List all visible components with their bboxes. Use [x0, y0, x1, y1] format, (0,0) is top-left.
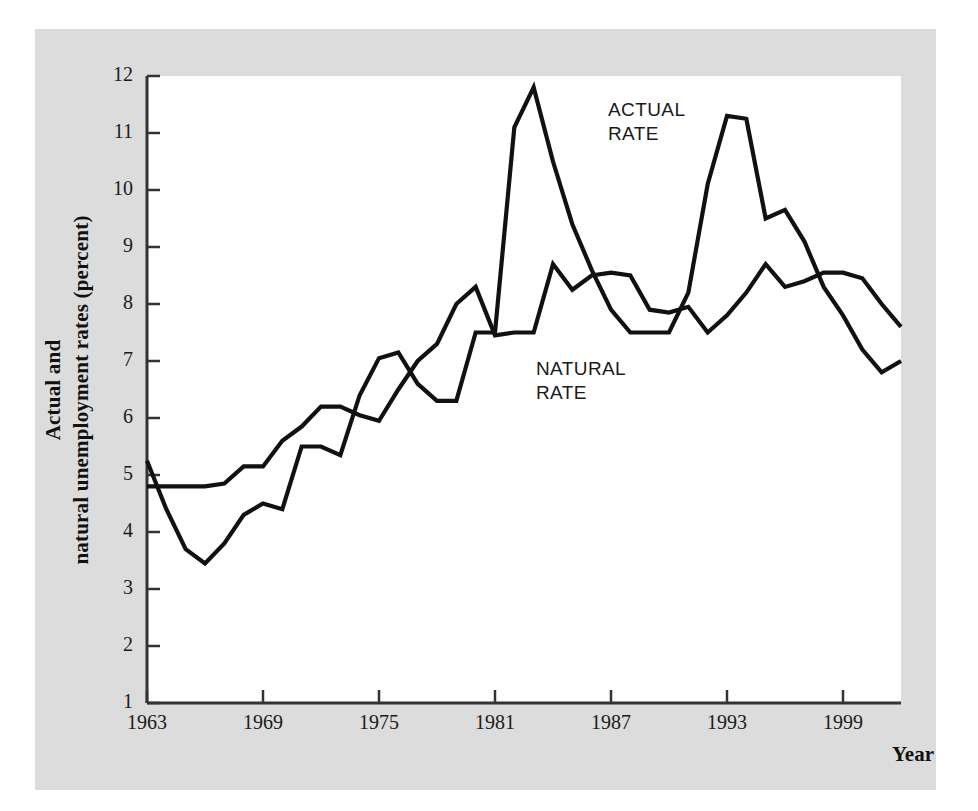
actual-rate-annotation-line-1: ACTUAL [608, 98, 685, 122]
y-axis-tick-label: 8 [99, 291, 133, 314]
y-axis-tick-label: 2 [99, 633, 133, 656]
natural-rate-annotation-line-1: NATURAL [536, 357, 626, 381]
x-axis-title: Year [892, 742, 934, 767]
x-axis-tick-label: 1969 [228, 711, 298, 734]
actual-rate-annotation: ACTUAL RATE [608, 98, 685, 147]
figure-root: Actual and natural unemployment rates (p… [0, 0, 978, 811]
x-axis-tick-label: 1993 [692, 711, 762, 734]
actual-rate-line [147, 87, 901, 563]
y-axis-tick-label: 7 [99, 348, 133, 371]
natural-rate-annotation-line-2: RATE [536, 381, 626, 405]
y-axis-tick-label: 3 [99, 576, 133, 599]
y-axis-ticks [147, 76, 160, 703]
y-axis-tick-label: 1 [99, 690, 133, 713]
y-axis-tick-label: 11 [99, 120, 133, 143]
y-axis-tick-label: 10 [99, 177, 133, 200]
y-axis-tick-label: 4 [99, 519, 133, 542]
axis-lines [147, 76, 901, 703]
natural-rate-line [147, 264, 901, 486]
y-axis-tick-label: 5 [99, 462, 133, 485]
x-axis-tick-label: 1981 [460, 711, 530, 734]
x-axis-tick-label: 1975 [344, 711, 414, 734]
x-axis-tick-label: 1963 [112, 711, 182, 734]
y-axis-tick-label: 6 [99, 405, 133, 428]
x-axis-tick-label: 1999 [808, 711, 878, 734]
y-axis-tick-label: 12 [99, 63, 133, 86]
data-series-lines [147, 87, 901, 563]
natural-rate-annotation: NATURAL RATE [536, 357, 626, 406]
x-axis-tick-label: 1987 [576, 711, 646, 734]
y-axis-tick-label: 9 [99, 234, 133, 257]
chart-svg [0, 0, 978, 811]
x-axis-ticks [147, 690, 843, 703]
actual-rate-annotation-line-2: RATE [608, 122, 685, 146]
